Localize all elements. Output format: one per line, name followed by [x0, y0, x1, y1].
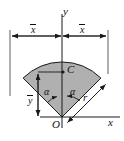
x-axis-label: x — [108, 117, 113, 128]
y-axis-label: y — [63, 6, 68, 17]
figure-canvas — [0, 0, 124, 141]
x-bar-left-label: x — [31, 25, 35, 35]
radius-label: r — [83, 92, 87, 103]
overbar-y — [27, 95, 33, 96]
centroid-point — [61, 70, 64, 73]
angle-right-label: α — [70, 87, 75, 97]
x-bar-right-label: x — [80, 25, 84, 35]
sector-centroid-figure: y x O C r x x y α α — [0, 0, 124, 141]
centroid-label: C — [67, 64, 74, 75]
x-bar-right-text: x — [80, 24, 84, 35]
overbar-right — [79, 24, 85, 25]
y-bar-label: y — [28, 96, 32, 106]
origin-label: O — [52, 119, 60, 130]
y-bar-text: y — [28, 95, 32, 106]
overbar-left — [30, 24, 36, 25]
x-bar-left-text: x — [31, 24, 35, 35]
angle-left-label: α — [44, 87, 49, 97]
